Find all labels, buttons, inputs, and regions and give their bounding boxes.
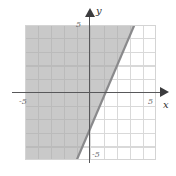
- y-axis-tick-label-bottom: -5: [92, 151, 100, 159]
- graph-figure: 5 -5 5 -5 x y: [0, 0, 176, 176]
- x-axis-line: [12, 92, 164, 93]
- x-axis-tick-label-left: -5: [19, 98, 27, 106]
- y-axis-label: y: [96, 6, 102, 16]
- y-axis-tick-label-top: 5: [76, 21, 81, 29]
- y-axis-arrow-icon: [85, 8, 95, 17]
- x-axis-arrow-icon: [160, 87, 169, 97]
- x-axis-label: x: [163, 100, 169, 110]
- x-axis-tick-label-right: 5: [148, 98, 153, 106]
- y-axis-line: [89, 13, 90, 163]
